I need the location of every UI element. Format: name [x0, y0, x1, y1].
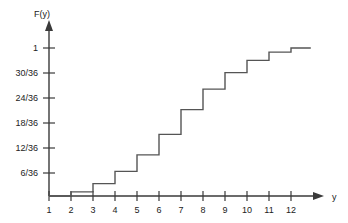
y-axis-tick-labels: 1 30/36 24/36 18/36 12/36 6/36 [15, 43, 38, 178]
chart-svg: 1 30/36 24/36 18/36 12/36 6/36 1 2 3 [0, 0, 348, 223]
cdf-step-chart: 1 30/36 24/36 18/36 12/36 6/36 1 2 3 [0, 0, 348, 223]
y-tick-label-6-36: 6/36 [20, 168, 38, 178]
x-tick-label-12: 12 [286, 205, 296, 215]
y-tick-label-1: 1 [33, 43, 38, 53]
x-axis [49, 192, 324, 200]
x-tick-label-7: 7 [178, 205, 183, 215]
cdf-step-curve [49, 48, 311, 196]
x-tick-label-10: 10 [242, 205, 252, 215]
y-tick-label-18-36: 18/36 [15, 118, 38, 128]
x-tick-label-1: 1 [46, 205, 51, 215]
x-tick-label-9: 9 [222, 205, 227, 215]
y-tick-label-30-36: 30/36 [15, 68, 38, 78]
y-axis-title: F(y) [34, 9, 50, 19]
y-tick-label-12-36: 12/36 [15, 143, 38, 153]
x-axis-arrowhead [313, 192, 324, 200]
y-axis-arrowhead [45, 20, 53, 31]
x-axis-title: y [332, 192, 337, 202]
x-tick-label-3: 3 [90, 205, 95, 215]
x-axis-tick-labels: 1 2 3 4 5 6 7 8 9 10 11 12 [46, 205, 296, 215]
x-tick-label-8: 8 [200, 205, 205, 215]
x-tick-label-6: 6 [156, 205, 161, 215]
y-tick-label-24-36: 24/36 [15, 93, 38, 103]
x-tick-label-4: 4 [112, 205, 117, 215]
x-tick-label-5: 5 [134, 205, 139, 215]
y-axis [45, 20, 53, 196]
x-tick-label-11: 11 [264, 205, 273, 215]
x-tick-label-2: 2 [68, 205, 73, 215]
